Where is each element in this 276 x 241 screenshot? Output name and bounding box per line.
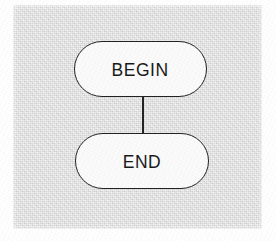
flowchart-node-begin-label: BEGIN [112, 60, 169, 79]
flowchart-node-begin[interactable]: BEGIN [74, 41, 207, 97]
flowchart-node-end[interactable]: END [75, 133, 209, 189]
flowchart-diagram: BEGIN END [0, 0, 276, 241]
flowchart-connector-begin-to-end [142, 96, 144, 134]
flowchart-node-end-label: END [123, 152, 162, 171]
screenshot-canvas: BEGIN END [0, 0, 276, 241]
